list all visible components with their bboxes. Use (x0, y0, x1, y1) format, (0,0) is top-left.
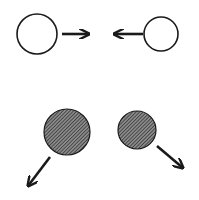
right-particle-after-shaded-circle (118, 111, 156, 149)
right-particle-circle (144, 17, 178, 51)
after-collision-group (28, 109, 183, 186)
left-particle-circle (17, 14, 57, 54)
before-collision-group (17, 14, 178, 54)
collision-diagram (0, 0, 199, 200)
left-particle-after-shaded-circle (44, 109, 90, 155)
right-after-velocity-arrow-icon (157, 146, 183, 168)
left-after-velocity-arrow-icon (28, 157, 50, 186)
